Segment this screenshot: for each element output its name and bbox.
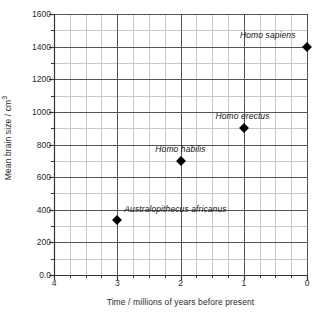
data-point-label: Australopithecus africanus xyxy=(124,204,226,214)
x-axis-tick-label: 0 xyxy=(295,278,319,288)
x-axis-title: Time / millions of years before present xyxy=(54,297,307,307)
data-point-label: Homo habilis xyxy=(155,144,205,154)
x-axis-tick-label: 4 xyxy=(42,278,66,288)
plot-area xyxy=(0,0,321,314)
x-axis-tick-label: 2 xyxy=(169,278,193,288)
data-point-label: Homo sapiens xyxy=(240,30,296,40)
x-axis-tick-label: 3 xyxy=(105,278,129,288)
brain-size-scatter-chart: Mean brain size / cm3 0.0200400600800100… xyxy=(0,0,321,314)
x-axis-tick-label: 1 xyxy=(232,278,256,288)
data-point-label: Homo erectus xyxy=(215,111,269,121)
